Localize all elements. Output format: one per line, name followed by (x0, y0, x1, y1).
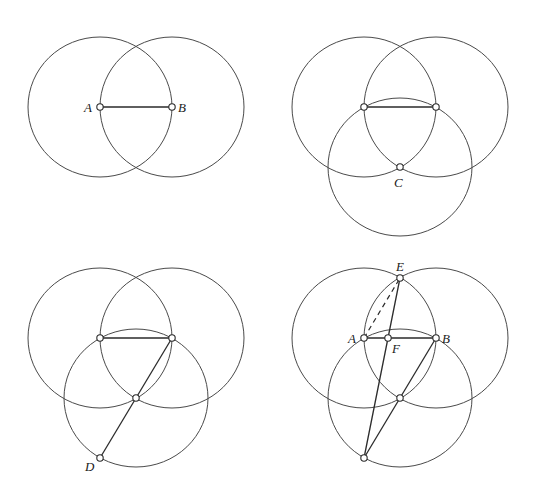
label-b: B (178, 100, 186, 115)
point-d (97, 455, 103, 461)
point-b (433, 104, 439, 110)
panel-step-4: A B E F (292, 259, 508, 467)
point-a (361, 335, 367, 341)
point-a (97, 335, 103, 341)
point-a (97, 104, 103, 110)
label-d: D (84, 459, 95, 474)
panel-step-1: A B (28, 37, 244, 177)
point-c (133, 395, 139, 401)
label-a: A (347, 331, 356, 346)
point-b (169, 335, 175, 341)
label-e: E (395, 259, 404, 274)
point-a (361, 104, 367, 110)
point-b (169, 104, 175, 110)
segment-ed (364, 278, 400, 458)
panel-step-2: C (292, 37, 508, 236)
point-c (397, 164, 403, 170)
label-b: B (442, 331, 450, 346)
label-a: A (83, 100, 92, 115)
geometry-figure: A B C D A (0, 0, 533, 483)
panel-step-3: D (28, 268, 244, 474)
point-b (433, 335, 439, 341)
point-e (397, 275, 403, 281)
label-c: C (394, 175, 403, 190)
point-d (361, 455, 367, 461)
label-f: F (391, 341, 401, 356)
point-f (385, 335, 391, 341)
point-c (397, 395, 403, 401)
